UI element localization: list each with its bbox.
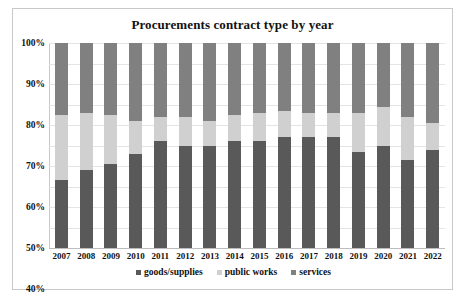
bar-column-2022[interactable]: 2022 xyxy=(426,43,439,248)
bar-segment-goods-supplies[interactable] xyxy=(228,141,241,248)
bar-segment-services[interactable] xyxy=(253,43,266,113)
bar-segment-goods-supplies[interactable] xyxy=(154,141,167,248)
bar-column-2020[interactable]: 2020 xyxy=(377,43,390,248)
bar-segment-goods-supplies[interactable] xyxy=(179,146,192,249)
bar-segment-services[interactable] xyxy=(327,43,340,113)
bar-segment-public-works[interactable] xyxy=(278,111,291,138)
bar-segment-goods-supplies[interactable] xyxy=(104,164,117,248)
bar-segment-services[interactable] xyxy=(104,43,117,115)
bar-segment-services[interactable] xyxy=(129,43,142,121)
bar-segment-services[interactable] xyxy=(80,43,93,113)
stacked-bar[interactable] xyxy=(426,43,439,248)
y-axis-label: 50% xyxy=(26,243,45,253)
stacked-bar[interactable] xyxy=(154,43,167,248)
bar-segment-public-works[interactable] xyxy=(228,115,241,142)
bar-segment-public-works[interactable] xyxy=(253,113,266,142)
stacked-bar[interactable] xyxy=(302,43,315,248)
bar-segment-services[interactable] xyxy=(302,43,315,113)
bar-segment-services[interactable] xyxy=(352,43,365,113)
bar-column-2008[interactable]: 2008 xyxy=(80,43,93,248)
bar-segment-goods-supplies[interactable] xyxy=(129,154,142,248)
bar-segment-public-works[interactable] xyxy=(80,113,93,170)
bar-column-2014[interactable]: 2014 xyxy=(228,43,241,248)
legend-item-services[interactable]: services xyxy=(291,267,331,277)
bar-segment-goods-supplies[interactable] xyxy=(377,146,390,249)
y-axis-label: 90% xyxy=(26,79,45,89)
bar-segment-goods-supplies[interactable] xyxy=(352,152,365,248)
stacked-bar[interactable] xyxy=(401,43,414,248)
bar-segment-services[interactable] xyxy=(377,43,390,107)
square-marker-icon xyxy=(136,270,141,275)
y-axis-label: 100% xyxy=(21,38,45,48)
y-axis-label: 70% xyxy=(26,161,45,171)
y-axis-label: 40% xyxy=(26,284,45,294)
bar-segment-goods-supplies[interactable] xyxy=(327,137,340,248)
bar-column-2012[interactable]: 2012 xyxy=(179,43,192,248)
square-marker-icon xyxy=(291,270,296,275)
bar-segment-public-works[interactable] xyxy=(377,107,390,146)
legend-item-goods-supplies[interactable]: goods/supplies xyxy=(136,267,203,277)
chart-container: Procurements contract type by year 0%10%… xyxy=(12,8,453,290)
bar-column-2019[interactable]: 2019 xyxy=(352,43,365,248)
bar-column-2007[interactable]: 2007 xyxy=(55,43,68,248)
bar-segment-goods-supplies[interactable] xyxy=(426,150,439,248)
bar-segment-public-works[interactable] xyxy=(104,115,117,164)
bar-segment-services[interactable] xyxy=(179,43,192,117)
bar-segment-public-works[interactable] xyxy=(154,117,167,142)
legend-item-public-works[interactable]: public works xyxy=(217,267,278,277)
bar-segment-public-works[interactable] xyxy=(327,113,340,138)
stacked-bar[interactable] xyxy=(228,43,241,248)
bar-segment-goods-supplies[interactable] xyxy=(302,137,315,248)
bar-segment-services[interactable] xyxy=(55,43,68,115)
bar-column-2021[interactable]: 2021 xyxy=(401,43,414,248)
bar-segment-services[interactable] xyxy=(426,43,439,123)
bar-segment-public-works[interactable] xyxy=(352,113,365,152)
bar-column-2018[interactable]: 2018 xyxy=(327,43,340,248)
bar-column-2010[interactable]: 2010 xyxy=(129,43,142,248)
bar-segment-public-works[interactable] xyxy=(401,117,414,160)
stacked-bar[interactable] xyxy=(104,43,117,248)
bar-column-2017[interactable]: 2017 xyxy=(302,43,315,248)
bar-column-2013[interactable]: 2013 xyxy=(203,43,216,248)
stacked-bar[interactable] xyxy=(179,43,192,248)
x-axis-label-2016: 2016 xyxy=(275,251,293,261)
bar-column-2015[interactable]: 2015 xyxy=(253,43,266,248)
bar-segment-public-works[interactable] xyxy=(129,121,142,154)
stacked-bar[interactable] xyxy=(80,43,93,248)
bar-segment-goods-supplies[interactable] xyxy=(401,160,414,248)
gridline-0: 0% xyxy=(49,248,445,249)
bar-segment-goods-supplies[interactable] xyxy=(253,141,266,248)
bar-segment-public-works[interactable] xyxy=(426,123,439,150)
legend-label: services xyxy=(299,267,331,277)
stacked-bar[interactable] xyxy=(253,43,266,248)
bar-segment-services[interactable] xyxy=(203,43,216,121)
x-axis-label-2018: 2018 xyxy=(325,251,343,261)
bar-segment-public-works[interactable] xyxy=(203,121,216,146)
bar-segment-goods-supplies[interactable] xyxy=(80,170,93,248)
bar-segment-services[interactable] xyxy=(154,43,167,117)
bar-segment-goods-supplies[interactable] xyxy=(55,180,68,248)
stacked-bar[interactable] xyxy=(377,43,390,248)
bar-segment-public-works[interactable] xyxy=(55,115,68,181)
bar-segment-services[interactable] xyxy=(401,43,414,117)
bar-segment-goods-supplies[interactable] xyxy=(203,146,216,249)
bar-column-2016[interactable]: 2016 xyxy=(278,43,291,248)
x-axis-label-2009: 2009 xyxy=(102,251,120,261)
bar-segment-goods-supplies[interactable] xyxy=(278,137,291,248)
stacked-bar[interactable] xyxy=(278,43,291,248)
stacked-bar[interactable] xyxy=(203,43,216,248)
x-axis-label-2011: 2011 xyxy=(152,251,170,261)
stacked-bar[interactable] xyxy=(55,43,68,248)
square-marker-icon xyxy=(217,270,222,275)
stacked-bar[interactable] xyxy=(327,43,340,248)
bar-segment-services[interactable] xyxy=(228,43,241,115)
x-axis-label-2008: 2008 xyxy=(77,251,95,261)
stacked-bar[interactable] xyxy=(129,43,142,248)
bar-segment-public-works[interactable] xyxy=(179,117,192,146)
bar-segment-services[interactable] xyxy=(278,43,291,111)
bar-column-2011[interactable]: 2011 xyxy=(154,43,167,248)
bar-segment-public-works[interactable] xyxy=(302,113,315,138)
bar-column-2009[interactable]: 2009 xyxy=(104,43,117,248)
y-axis-label: 60% xyxy=(26,202,45,212)
stacked-bar[interactable] xyxy=(352,43,365,248)
